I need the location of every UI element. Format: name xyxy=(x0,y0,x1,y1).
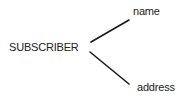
edge-subscriber-address xyxy=(90,52,129,84)
edge-subscriber-name xyxy=(91,20,129,42)
attribute-name-label: name xyxy=(133,6,160,17)
diagram-canvas: SUBSCRIBER name address xyxy=(0,0,183,98)
entity-subscriber-label: SUBSCRIBER xyxy=(9,42,79,53)
attribute-address-label: address xyxy=(137,82,175,93)
